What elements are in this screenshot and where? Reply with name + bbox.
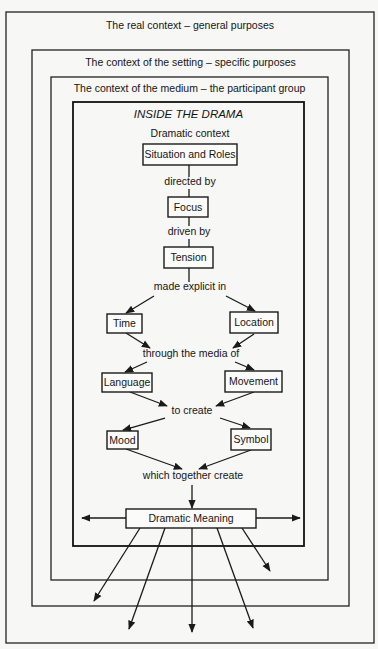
connector-label-driven-by: driven by — [168, 225, 211, 237]
connector-label-directed-by: directed by — [164, 175, 216, 187]
connector-labels: directed bydriven bymade explicit inthro… — [142, 175, 244, 481]
arrow — [126, 449, 182, 469]
frame-label: The context of the setting – specific pu… — [85, 56, 296, 68]
frame-label: The context of the medium – the particip… — [74, 82, 306, 94]
node-label: Language — [104, 376, 151, 388]
node-symbol: Symbol — [231, 429, 271, 450]
node-time: Time — [107, 314, 142, 333]
node-situation-and-roles: Situation and Roles — [143, 144, 237, 165]
node-label: Dramatic Meaning — [148, 512, 233, 524]
node-label: Time — [113, 317, 136, 329]
drama-context-diagram: The real context – general purposesThe c… — [0, 0, 378, 649]
arrow — [235, 362, 254, 370]
node-label: Symbol — [233, 433, 268, 445]
arrow — [220, 418, 250, 428]
connector-label-which-together-create: which together create — [142, 469, 244, 481]
arrow — [217, 528, 253, 628]
node-label: Movement — [229, 375, 278, 387]
frame-label: The real context – general purposes — [106, 19, 274, 31]
connector-label-to-create: to create — [172, 404, 213, 416]
node-location: Location — [230, 312, 278, 333]
node-label: Focus — [174, 201, 203, 213]
connector-label-through-the-media-of: through the media of — [143, 347, 239, 359]
frame-label: INSIDE THE DRAMA — [134, 108, 244, 120]
frame-real-context: The real context – general purposes — [6, 12, 374, 643]
arrow — [130, 392, 167, 406]
node-label: Location — [234, 316, 274, 328]
arrow — [216, 392, 254, 406]
arrow — [123, 418, 165, 430]
arrow — [233, 334, 254, 348]
node-dramatic-meaning: Dramatic Meaning — [126, 509, 256, 528]
connector-label-made-explicit-in: made explicit in — [154, 280, 227, 292]
node-label: Tension — [170, 251, 206, 263]
arrow — [199, 450, 251, 469]
arrow — [129, 528, 165, 629]
node-mood: Mood — [107, 431, 138, 449]
dramatic-context-label: Dramatic context — [151, 127, 230, 139]
node-label: Mood — [109, 434, 135, 446]
node-label: Situation and Roles — [144, 148, 235, 160]
node-tension: Tension — [164, 247, 213, 268]
frame-border — [6, 12, 374, 643]
context-frames: The real context – general purposesThe c… — [6, 12, 374, 643]
node-movement: Movement — [225, 371, 282, 392]
node-focus: Focus — [168, 197, 208, 217]
node-language: Language — [102, 373, 152, 392]
arrow — [125, 362, 147, 372]
arrow — [94, 528, 140, 601]
arrow — [226, 296, 255, 311]
arrow — [126, 333, 150, 348]
arrow — [242, 528, 270, 571]
arrow — [126, 296, 154, 313]
